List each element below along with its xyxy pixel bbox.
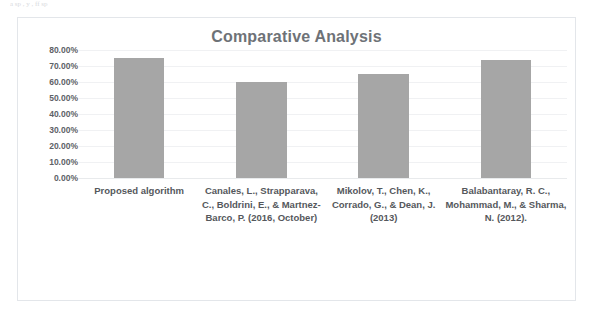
y-axis-tick-label: 0.00% <box>24 173 78 183</box>
bar-slot <box>323 50 445 178</box>
bar[interactable] <box>114 58 164 178</box>
bar[interactable] <box>236 82 286 178</box>
y-axis-tick-label: 60.00% <box>24 77 78 87</box>
chart-title: Comparative Analysis <box>18 28 575 46</box>
bar-slot <box>78 50 200 178</box>
y-axis-tick-label: 50.00% <box>24 93 78 103</box>
y-axis-tick-label: 40.00% <box>24 109 78 119</box>
bar-series <box>78 50 567 178</box>
y-axis: 80.00%70.00%60.00%50.00%40.00%30.00%20.0… <box>24 50 78 178</box>
bar[interactable] <box>481 60 531 178</box>
scanned-page-text-sliver: a sp , y , ff sp <box>10 0 350 8</box>
x-axis-category-label: Mikolov, T., Chen, K., Corrado, G., & De… <box>323 184 445 225</box>
y-axis-tick-label: 10.00% <box>24 157 78 167</box>
gridline <box>78 178 567 179</box>
y-axis-tick-label: 20.00% <box>24 141 78 151</box>
x-axis-category-labels: Proposed algorithmCanales, L., Strappara… <box>78 184 567 294</box>
bar[interactable] <box>358 74 408 178</box>
chart-container: Comparative Analysis 80.00%70.00%60.00%5… <box>17 17 576 301</box>
bar-slot <box>445 50 567 178</box>
x-axis-category-label: Canales, L., Strapparava, C., Boldrini, … <box>200 184 322 225</box>
y-axis-tick-label: 80.00% <box>24 45 78 55</box>
x-axis-category-label: Balabantaray, R. C., Mohammad, M., & Sha… <box>445 184 567 225</box>
y-axis-tick-label: 30.00% <box>24 125 78 135</box>
x-axis-category-label: Proposed algorithm <box>78 184 200 198</box>
bar-slot <box>200 50 322 178</box>
y-axis-tick-label: 70.00% <box>24 61 78 71</box>
